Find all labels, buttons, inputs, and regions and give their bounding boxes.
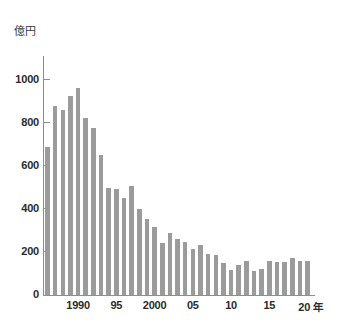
- bar: [229, 270, 234, 295]
- x-axis-tick-label: 15: [263, 299, 275, 311]
- plot-area: [44, 58, 312, 295]
- bar: [61, 110, 66, 295]
- bar-chart: 億円 02004006008001000 199095200005101520 …: [0, 0, 344, 332]
- bar: [145, 219, 150, 295]
- y-axis-tick-label-wrap: 800: [0, 116, 39, 129]
- bar: [305, 261, 310, 295]
- x-axis-tick-label: 1990: [66, 299, 90, 311]
- bar: [137, 209, 142, 295]
- y-axis-tick-label: 400: [21, 202, 39, 214]
- x-axis-tick-label: 95: [110, 299, 122, 311]
- bar: [83, 118, 88, 295]
- x-axis-tick-label: 2000: [143, 299, 167, 311]
- bar: [183, 242, 188, 295]
- bar: [298, 261, 303, 295]
- x-axis-tick-label: 05: [187, 299, 199, 311]
- y-axis-tick-label-wrap: 0: [0, 288, 39, 301]
- bar: [290, 258, 295, 295]
- y-axis-tick-label: 200: [21, 245, 39, 257]
- bar: [68, 96, 73, 295]
- y-axis-tick-label: 600: [21, 159, 39, 171]
- bar: [152, 227, 157, 296]
- bar: [221, 263, 226, 295]
- x-axis-year-suffix: 年: [310, 301, 323, 313]
- y-axis-tick-label-wrap: 200: [0, 245, 39, 258]
- bar: [53, 106, 58, 295]
- bar: [252, 271, 257, 295]
- bar: [175, 239, 180, 295]
- bar: [236, 265, 241, 295]
- bar: [91, 128, 96, 295]
- bar: [106, 188, 111, 295]
- bar: [114, 189, 119, 295]
- bar: [206, 254, 211, 295]
- y-axis-tick-label-wrap: 1000: [0, 73, 39, 86]
- bar: [198, 245, 203, 295]
- bar: [122, 198, 127, 295]
- bar: [76, 88, 81, 295]
- bar: [99, 155, 104, 295]
- bar: [259, 269, 264, 295]
- y-axis-tick-label-wrap: 400: [0, 202, 39, 215]
- bar: [160, 243, 165, 295]
- bar: [129, 186, 134, 295]
- y-axis-unit-label: 億円: [14, 22, 36, 38]
- bar: [45, 147, 50, 295]
- bar: [168, 233, 173, 295]
- bar: [214, 255, 219, 295]
- bar: [191, 249, 196, 295]
- bar: [275, 262, 280, 295]
- y-axis-tick-label: 0: [33, 288, 39, 300]
- bar: [267, 261, 272, 295]
- y-axis-tick-label-wrap: 600: [0, 159, 39, 172]
- x-axis-tick-label: 10: [225, 299, 237, 311]
- x-axis-tick-label: 20 年: [298, 299, 322, 314]
- y-axis-tick-label: 800: [21, 116, 39, 128]
- bar: [282, 262, 287, 295]
- bar: [244, 261, 249, 295]
- y-axis-tick-label: 1000: [15, 73, 39, 85]
